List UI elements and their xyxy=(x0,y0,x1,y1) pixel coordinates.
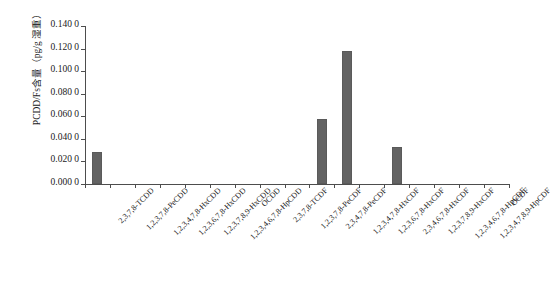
y-tick-mark xyxy=(81,49,85,50)
x-axis-label-group: 2,3,7,8-TCDD1,2,3,7,8-PeCDD1,2,3,4,7,8-H… xyxy=(85,186,515,283)
bar xyxy=(317,119,327,184)
y-tick-label: 0.000 0 xyxy=(51,177,80,187)
bar xyxy=(392,147,402,184)
y-tick-label: 0.040 0 xyxy=(51,132,80,142)
y-tick-mark xyxy=(81,94,85,95)
y-tick-label: 0.120 0 xyxy=(51,42,80,52)
y-tick-label: 0.140 0 xyxy=(51,19,80,29)
y-tick-label: 0.080 0 xyxy=(51,87,80,97)
y-tick-label: 0.100 0 xyxy=(51,64,80,74)
y-tick-label: 0.060 0 xyxy=(51,109,80,119)
y-axis-title: PCDD/Fs含量（pg/g 湿重） xyxy=(29,0,43,147)
y-axis-line xyxy=(85,26,86,185)
plot-area: 0.000 00.020 00.040 00.060 00.080 00.100… xyxy=(85,26,509,184)
y-tick-label: 0.020 0 xyxy=(51,154,80,164)
y-tick-mark xyxy=(81,139,85,140)
y-tick-mark xyxy=(81,26,85,27)
y-tick-mark xyxy=(81,116,85,117)
y-tick-mark xyxy=(81,71,85,72)
bar xyxy=(342,51,352,184)
y-tick-mark xyxy=(81,161,85,162)
bar xyxy=(92,152,102,184)
